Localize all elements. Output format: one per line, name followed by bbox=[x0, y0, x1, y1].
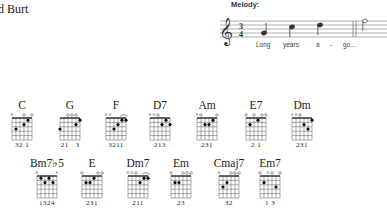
chord-name: C bbox=[2, 99, 42, 111]
fretboard-grid: × bbox=[256, 169, 284, 199]
fretboard-grid: × bbox=[193, 111, 221, 141]
chord-name: Cmaj7 bbox=[209, 157, 249, 169]
chord-diagram: D7××213 bbox=[140, 99, 180, 149]
svg-text:×: × bbox=[152, 112, 156, 117]
chord-diagram: G21 3 bbox=[50, 99, 90, 149]
finger-numbers: 1 3 bbox=[250, 199, 290, 207]
chord-name: Em7 bbox=[250, 157, 290, 169]
chord-diagram: Bm7♭5××1324 bbox=[27, 157, 67, 207]
chord-name: E bbox=[72, 157, 112, 169]
fretboard-grid bbox=[56, 111, 84, 141]
chord-name: Am bbox=[187, 99, 227, 111]
chord-diagram: Cmaj7×32 bbox=[209, 157, 249, 207]
svg-text:×: × bbox=[10, 112, 14, 117]
svg-text:×: × bbox=[55, 170, 59, 175]
finger-numbers: 3211 bbox=[96, 141, 136, 149]
lyric-word: go... bbox=[343, 41, 356, 48]
finger-numbers: 32 1 bbox=[2, 141, 42, 149]
finger-numbers: 1324 bbox=[27, 199, 67, 207]
chord-diagram: Dm7××211 bbox=[118, 157, 158, 207]
svg-text:×: × bbox=[195, 112, 199, 117]
lyric-word: years bbox=[283, 41, 299, 48]
melody-label: Melody: bbox=[231, 0, 259, 9]
fretboard-grid: ×× bbox=[102, 111, 130, 141]
melody-staff: 𝄞 3 4 bbox=[212, 12, 387, 52]
fretboard-grid: ×× bbox=[146, 111, 174, 141]
chord-diagram: E231 bbox=[72, 157, 112, 207]
fretboard-grid bbox=[167, 169, 195, 199]
lyric-word: a bbox=[316, 41, 320, 48]
svg-text:4: 4 bbox=[239, 30, 243, 39]
fretboard-grid bbox=[242, 111, 270, 141]
fretboard-grid: × bbox=[8, 111, 36, 141]
chord-diagram: E72 1 bbox=[236, 99, 276, 149]
svg-text:×: × bbox=[217, 170, 221, 175]
chord-name: D7 bbox=[140, 99, 180, 111]
finger-numbers: 32 bbox=[209, 199, 249, 207]
chord-diagram: Am×231 bbox=[187, 99, 227, 149]
lyric-word: - bbox=[330, 41, 332, 48]
chord-diagram: C×32 1 bbox=[2, 99, 42, 149]
fretboard-grid: ×× bbox=[33, 169, 61, 199]
fretboard-grid: × bbox=[215, 169, 243, 199]
chord-diagram: Dm××231 bbox=[282, 99, 322, 149]
song-credit: d Burt bbox=[0, 2, 28, 17]
svg-text:×: × bbox=[130, 170, 134, 175]
chord-name: F bbox=[96, 99, 136, 111]
fretboard-grid: ×× bbox=[288, 111, 316, 141]
svg-text:×: × bbox=[108, 112, 112, 117]
finger-numbers: 2 1 bbox=[236, 141, 276, 149]
finger-numbers: 21 3 bbox=[50, 141, 90, 149]
finger-numbers: 211 bbox=[118, 199, 158, 207]
chord-diagram: Em7×1 3 bbox=[250, 157, 290, 207]
chord-name: G bbox=[50, 99, 90, 111]
chord-diagram: F××3211 bbox=[96, 99, 136, 149]
fretboard-grid bbox=[78, 169, 106, 199]
chord-name: Dm bbox=[282, 99, 322, 111]
chord-name: E7 bbox=[236, 99, 276, 111]
finger-numbers: 231 bbox=[72, 199, 112, 207]
svg-text:×: × bbox=[266, 170, 270, 175]
finger-numbers: 231 bbox=[282, 141, 322, 149]
chord-diagram: Em23 bbox=[161, 157, 201, 207]
fretboard-grid: ×× bbox=[124, 169, 152, 199]
finger-numbers: 231 bbox=[187, 141, 227, 149]
chord-name: Dm7 bbox=[118, 157, 158, 169]
svg-text:×: × bbox=[294, 112, 298, 117]
finger-numbers: 213 bbox=[140, 141, 180, 149]
finger-numbers: 23 bbox=[161, 199, 201, 207]
chord-name: Em bbox=[161, 157, 201, 169]
chord-name: Bm7♭5 bbox=[27, 157, 67, 169]
treble-clef-icon: 𝄞 bbox=[219, 17, 233, 46]
svg-text:×: × bbox=[35, 170, 39, 175]
lyric-word: Long bbox=[256, 41, 270, 48]
